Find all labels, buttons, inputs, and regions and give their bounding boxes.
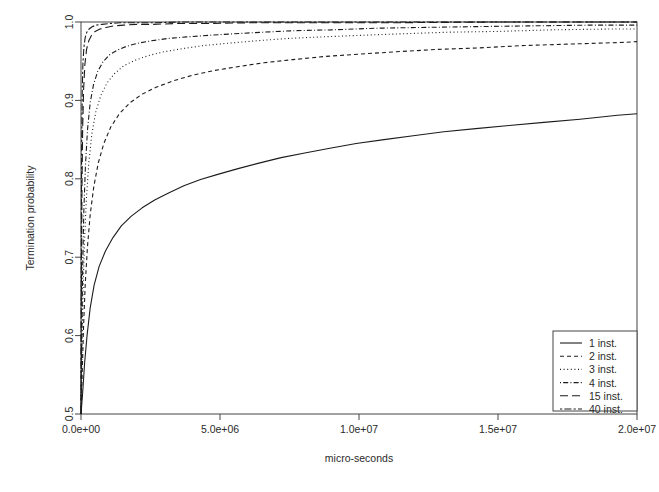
x-tick-label: 2.0e+07 xyxy=(618,423,656,435)
x-tick-label: 0.0e+00 xyxy=(62,423,100,435)
y-tick-label: 1.0 xyxy=(63,15,75,30)
chart-legend[interactable]: 1 inst.2 inst.3 inst.4 inst.15 inst.40 i… xyxy=(553,331,637,415)
y-tick-label: 0.6 xyxy=(63,328,75,343)
chart-background xyxy=(0,0,659,492)
x-tick-label: 1.0e+07 xyxy=(340,423,378,435)
legend-label: 4 inst. xyxy=(589,377,617,389)
legend-label: 15 inst. xyxy=(589,390,623,402)
legend-label: 40 inst. xyxy=(589,403,623,415)
x-axis-title: micro-seconds xyxy=(325,452,393,464)
legend-label: 3 inst. xyxy=(589,363,617,375)
y-tick-label: 0.7 xyxy=(63,250,75,265)
y-tick-label: 0.5 xyxy=(63,407,75,422)
y-tick-label: 0.8 xyxy=(63,171,75,186)
y-tick-label: 0.9 xyxy=(63,93,75,108)
legend-label: 2 inst. xyxy=(589,350,617,362)
chart-container: 0.50.60.70.80.91.0 0.0e+005.0e+061.0e+07… xyxy=(0,0,659,492)
y-axis-title: Termination probability xyxy=(24,165,36,271)
x-tick-label: 1.5e+07 xyxy=(479,423,517,435)
termination-probability-chart: 0.50.60.70.80.91.0 0.0e+005.0e+061.0e+07… xyxy=(0,0,659,492)
legend-label: 1 inst. xyxy=(589,337,617,349)
x-tick-label: 5.0e+06 xyxy=(201,423,239,435)
